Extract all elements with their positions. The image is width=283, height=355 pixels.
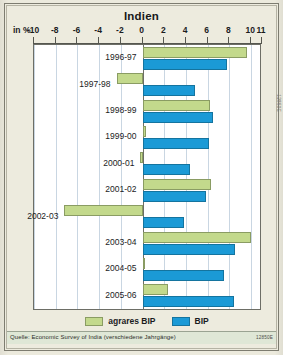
x-axis-tick bbox=[228, 37, 229, 44]
source-text: Quelle: Economic Survey of India (versch… bbox=[10, 334, 176, 340]
x-axis-tick bbox=[33, 37, 34, 44]
x-axis-tick-label: -10 bbox=[27, 25, 39, 35]
x-axis-tick-label: 11 bbox=[257, 25, 266, 35]
x-axis-tick-label: 8 bbox=[226, 25, 231, 35]
chart-row bbox=[34, 232, 260, 255]
bar-agrares-bip bbox=[140, 152, 142, 163]
bar-agrares-bip bbox=[143, 126, 146, 137]
legend-item-bip: BIP bbox=[172, 316, 209, 326]
plot-area bbox=[33, 44, 261, 310]
bar-agrares-bip bbox=[143, 258, 145, 269]
x-axis-tick bbox=[261, 37, 262, 44]
x-axis-tick-label: 6 bbox=[204, 25, 209, 35]
x-axis-tick bbox=[163, 37, 164, 44]
x-axis-tick bbox=[142, 37, 143, 44]
x-axis-tick-label: -6 bbox=[73, 25, 81, 35]
category-label: 2005-06 bbox=[105, 290, 136, 300]
x-axis-tick bbox=[207, 37, 208, 44]
bar-bip bbox=[143, 138, 209, 149]
legend-item-agrares-bip: agrares BIP bbox=[85, 316, 155, 326]
category-label: 1999-00 bbox=[105, 131, 136, 141]
chart-row bbox=[34, 100, 260, 123]
bar-agrares-bip bbox=[143, 47, 247, 58]
x-axis-tick-label: 2 bbox=[161, 25, 166, 35]
legend-label-agrares-bip: agrares BIP bbox=[108, 316, 155, 326]
bar-bip bbox=[143, 270, 224, 281]
legend: agrares BIP BIP bbox=[33, 314, 261, 328]
bar-agrares-bip bbox=[143, 232, 252, 243]
category-label: 1996-97 bbox=[105, 52, 136, 62]
category-label: 2003-04 bbox=[105, 237, 136, 247]
legend-label-bip: BIP bbox=[195, 316, 209, 326]
chart-row bbox=[34, 284, 260, 307]
bar-bip bbox=[143, 85, 195, 96]
bar-bip bbox=[143, 164, 191, 175]
category-label: 2004-05 bbox=[105, 263, 136, 273]
bar-bip bbox=[143, 112, 214, 123]
bar-bip bbox=[143, 191, 206, 202]
x-axis-tick bbox=[76, 37, 77, 44]
x-axis: in % -10-8-6-4-2024681011 bbox=[0, 25, 283, 41]
category-label: 2001-02 bbox=[105, 184, 136, 194]
category-label: 2002-03 bbox=[27, 211, 58, 221]
chart-row bbox=[34, 205, 260, 228]
x-axis-tick bbox=[250, 37, 251, 44]
source-strip: Quelle: Economic Survey of India (versch… bbox=[7, 331, 276, 344]
category-label: 1997-98 bbox=[79, 79, 110, 89]
bar-bip bbox=[143, 244, 235, 255]
legend-swatch-agrares-bip bbox=[85, 317, 103, 326]
bar-bip bbox=[143, 217, 184, 228]
x-axis-tick-label: 4 bbox=[183, 25, 188, 35]
chart-row bbox=[34, 73, 260, 96]
x-axis-tick-label: 0 bbox=[139, 25, 144, 35]
x-axis-tick-label: 10 bbox=[245, 25, 254, 35]
chart-row bbox=[34, 258, 260, 281]
x-axis-tick-label: -8 bbox=[51, 25, 59, 35]
x-axis-tick bbox=[55, 37, 56, 44]
bar-agrares-bip bbox=[117, 73, 143, 84]
bar-agrares-bip bbox=[143, 284, 168, 295]
bar-bip bbox=[143, 59, 228, 70]
chart-row bbox=[34, 47, 260, 70]
chart-title: Indien bbox=[0, 10, 283, 22]
category-label: 2000-01 bbox=[103, 158, 134, 168]
source-code: 12850E bbox=[256, 335, 273, 340]
chart-row bbox=[34, 126, 260, 149]
x-axis-tick-label: -2 bbox=[116, 25, 124, 35]
x-axis-tick bbox=[185, 37, 186, 44]
bar-bip bbox=[143, 296, 234, 307]
chart-page: Indien in % -10-8-6-4-2024681011 agrares… bbox=[0, 0, 283, 355]
bar-agrares-bip bbox=[64, 205, 142, 216]
category-label: 1998-99 bbox=[105, 105, 136, 115]
x-axis-tick bbox=[98, 37, 99, 44]
x-axis-tick bbox=[120, 37, 121, 44]
chart-row bbox=[34, 179, 260, 202]
bar-agrares-bip bbox=[143, 100, 210, 111]
side-code: 12850E bbox=[276, 94, 281, 112]
x-axis-tick-label: -4 bbox=[94, 25, 102, 35]
chart-row bbox=[34, 152, 260, 175]
legend-swatch-bip bbox=[172, 317, 190, 326]
bar-agrares-bip bbox=[143, 179, 211, 190]
